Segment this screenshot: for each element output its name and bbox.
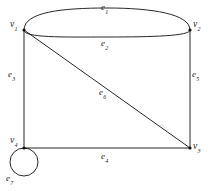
vertex-label-v3-name: v: [193, 141, 197, 151]
vertex-label-v2-index: 2: [198, 26, 201, 32]
edge-label-e2: e2: [101, 39, 108, 50]
vertex-label-v1: v1: [10, 20, 17, 31]
edge-label-e2-index: 2: [105, 45, 108, 51]
vertex-label-v3: v3: [193, 142, 200, 153]
vertex-label-v4-name: v: [10, 135, 14, 145]
vertex-dot-v1: [22, 28, 25, 31]
edge-label-e4-index: 4: [105, 158, 108, 164]
vertex-label-v1-index: 1: [15, 26, 18, 32]
vertex-label-v4-index: 4: [15, 142, 18, 148]
graph-diagram: v1 v2 v3 v4 e1 e2 e3 e4 e5 e6 e7: [0, 0, 208, 191]
edge-label-e6: e6: [99, 88, 106, 99]
edge-e2-arc: [24, 30, 190, 37]
edge-label-e5: e5: [192, 70, 199, 81]
vertex-label-v3-index: 3: [198, 148, 201, 154]
edge-label-e1: e1: [101, 3, 108, 14]
edge-label-e1-index: 1: [105, 9, 108, 15]
edge-label-e5-index: 5: [196, 76, 199, 82]
vertex-label-v1-name: v: [10, 19, 14, 29]
edge-label-e3: e3: [8, 70, 15, 81]
vertex-dot-v4: [22, 146, 25, 149]
edge-label-e7: e7: [6, 174, 13, 185]
vertex-label-v4: v4: [10, 136, 17, 147]
vertex-dot-v3: [188, 146, 191, 149]
edge-e7-self-loop: [10, 148, 38, 176]
edge-label-e3-index: 3: [12, 76, 15, 82]
vertex-label-v2: v2: [193, 20, 200, 31]
vertex-dot-v2: [188, 28, 191, 31]
edge-label-e4: e4: [101, 152, 108, 163]
vertex-label-v2-name: v: [193, 19, 197, 29]
edge-label-e6-index: 6: [103, 94, 106, 100]
edge-label-e7-index: 7: [10, 180, 13, 186]
